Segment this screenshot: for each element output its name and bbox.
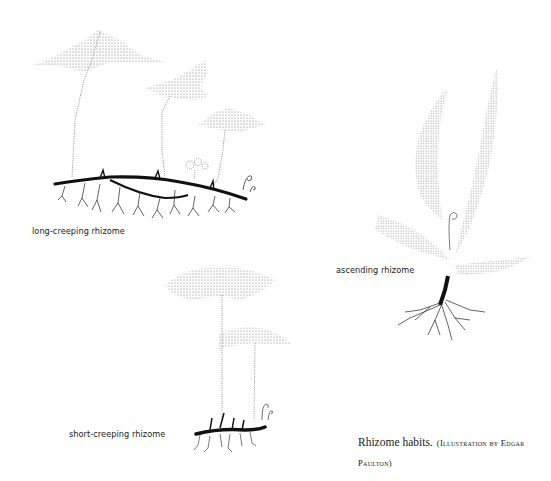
short-creeping-fern-drawing — [165, 268, 292, 453]
short-roots — [194, 432, 256, 452]
label-long-creeping: long-creeping rhizome — [32, 226, 125, 236]
figure-caption: Rhizome habits. (Illustration by Edgar P… — [358, 432, 548, 472]
caption-credit: (Illustration by Edgar — [437, 438, 525, 448]
rhizome-habits-illustration — [0, 0, 551, 481]
frond-small — [198, 108, 265, 187]
frond-medium — [145, 60, 210, 178]
frond-large — [35, 30, 165, 178]
label-short-creeping: short-creeping rhizome — [69, 429, 165, 439]
ascending-fern-drawing — [375, 68, 530, 340]
caption-title: Rhizome habits. — [358, 436, 433, 448]
label-ascending: ascending rhizome — [336, 265, 414, 275]
young-frond — [186, 159, 208, 181]
long-creeping-fern-drawing — [35, 30, 265, 218]
ascending-roots — [398, 300, 485, 340]
caption-credit-end: Paulton) — [358, 458, 392, 468]
